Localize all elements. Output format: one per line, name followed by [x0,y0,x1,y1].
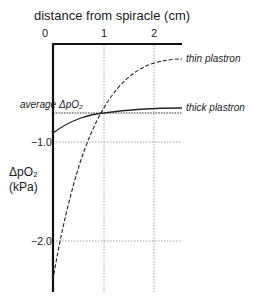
thin-plastron-curve [53,59,182,280]
thick-plastron-label: thick plastron [186,102,245,113]
y-axis-title: ΔpO₂ (kPa) [9,165,38,195]
thick-plastron-curve [53,108,182,133]
y-tick-minus-1: −1.0 [31,136,52,148]
y-axis-title-line2: (kPa) [9,180,38,195]
chart-plot [0,0,254,300]
y-tick-minus-2: −2.0 [31,235,52,247]
thin-plastron-label: thin plastron [186,53,240,64]
y-axis-title-line1: ΔpO₂ [9,165,38,180]
average-label: average ΔpO₂ [20,99,83,110]
gridlines [53,45,182,292]
